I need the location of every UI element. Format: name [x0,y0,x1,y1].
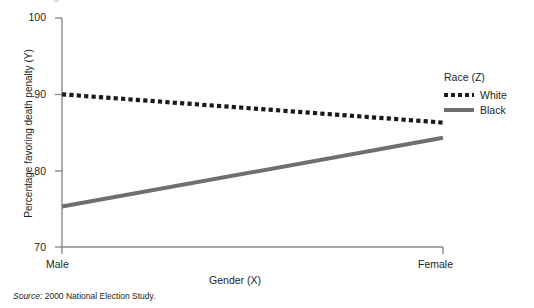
legend-item-white[interactable]: White [444,87,507,102]
series-line-black [62,138,443,207]
source-note: Source: 2000 National Election Study. [13,291,156,301]
legend-title: Race (Z) [444,71,507,83]
plot-canvas [0,0,534,308]
series-line-white [62,94,443,122]
figure-container: Figure 10.4 Interaction Percentage favor… [0,0,534,308]
legend-label-black: Black [480,104,506,116]
legend-item-black[interactable]: Black [444,102,507,117]
source-prefix: Source: [13,291,42,301]
source-text: 2000 National Election Study. [45,291,156,301]
legend-label-white: White [480,89,507,101]
legend: Race (Z) White Black [444,71,507,117]
legend-swatch-black-solid-line-icon [444,108,474,112]
legend-swatch-white-dotted-line-icon [444,93,474,97]
